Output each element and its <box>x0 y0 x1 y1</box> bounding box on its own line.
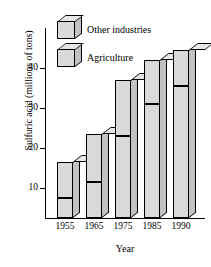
bar-side-1955 <box>73 157 80 218</box>
bar-segment-agriculture-1975 <box>115 136 131 218</box>
y-axis-title: Sulfuric acid (millions of tons) <box>23 1 34 181</box>
y-axis-tick-10 <box>40 188 46 189</box>
bar-side-1985 <box>160 55 167 218</box>
legend-swatch-front <box>57 49 75 67</box>
y-axis-label-20: 20 <box>12 143 38 152</box>
legend-swatch-cube-other-industries <box>57 15 83 39</box>
bar-segment-other-1965 <box>86 134 102 182</box>
bar-side-1990 <box>189 45 196 218</box>
bar-segment-agriculture-1990 <box>173 86 189 218</box>
bar-segment-agriculture-1955 <box>57 198 73 218</box>
y-axis-tick-40 <box>40 68 46 69</box>
legend-swatch-cube-agriculture <box>57 43 83 67</box>
y-axis-tick-20 <box>40 148 46 149</box>
x-axis-label-1990: 1990 <box>161 221 201 231</box>
bar-side-1975 <box>131 75 138 218</box>
y-axis-tick-30 <box>40 108 46 109</box>
bar-segment-other-1990 <box>173 50 189 86</box>
y-axis-label-30: 30 <box>12 103 38 112</box>
legend-swatch-front <box>57 21 75 39</box>
bar-segment-agriculture-1985 <box>144 104 160 218</box>
legend-label-agriculture: Agriculture <box>87 52 133 63</box>
legend-label-other-industries: Other industries <box>87 24 151 35</box>
bar-segment-other-1985 <box>144 60 160 104</box>
y-axis-label-10: 10 <box>12 183 38 192</box>
bar-segment-agriculture-1965 <box>86 182 102 218</box>
bar-side-1965 <box>102 129 109 218</box>
x-axis-line <box>45 218 205 219</box>
y-axis-line <box>45 28 46 219</box>
bar-segment-other-1955 <box>57 162 73 198</box>
bar-segment-other-1975 <box>115 80 131 136</box>
x-axis-title: Year <box>45 243 205 254</box>
chart-figure: Sulfuric acid (millions of tons) 40 30 2… <box>0 0 211 267</box>
bar-top-1990 <box>189 43 211 50</box>
y-axis-label-40: 40 <box>12 63 38 72</box>
